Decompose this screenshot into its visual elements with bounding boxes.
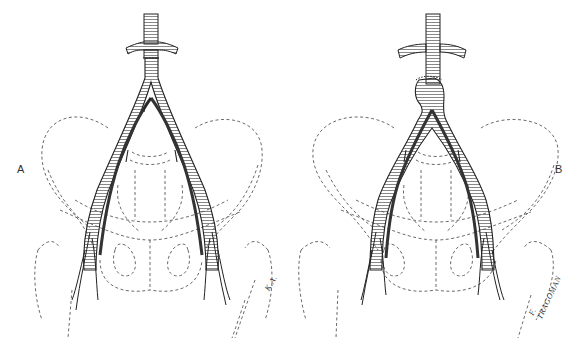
pelvis-outline <box>299 117 558 338</box>
aorta <box>398 14 466 84</box>
graft-illustration-a <box>0 0 286 338</box>
pelvis-outline <box>35 117 272 338</box>
panel-b: B F. TRAGOMAN <box>286 0 572 338</box>
graft-limbs <box>84 58 219 270</box>
graft-limbs <box>370 78 494 270</box>
panel-a: A K.A. <box>0 0 286 338</box>
aorta <box>126 14 178 58</box>
panel-label-a: A <box>17 163 24 175</box>
panel-label-b: B <box>555 163 562 175</box>
graft-illustration-b <box>286 0 572 338</box>
